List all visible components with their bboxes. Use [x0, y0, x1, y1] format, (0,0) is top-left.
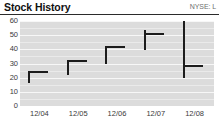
ohlc-stem [67, 61, 69, 75]
ohlc-stem [105, 47, 107, 64]
ohlc-stem [28, 72, 30, 83]
ohlc-close-tick [67, 60, 87, 62]
x-axis-tick-label: 12/04 [30, 109, 49, 118]
ohlc-close-tick [105, 46, 125, 48]
y-axis-tick-label: 0 [1, 102, 18, 110]
page-title: Stock History [4, 1, 70, 13]
gridline-minor [20, 85, 214, 86]
x-axis-tick-label: 12/05 [69, 109, 88, 118]
ohlc-close-tick [183, 65, 203, 67]
header-divider [0, 14, 219, 15]
ticker-symbol-label: NYSE: L [190, 3, 216, 10]
x-axis-tick-label: 12/06 [108, 109, 127, 118]
ohlc-close-tick [144, 33, 164, 35]
x-axis-tick-label: 12/08 [185, 109, 204, 118]
gridline-minor [20, 99, 214, 100]
stock-history-widget: Stock History NYSE: L 0102030405060 12/0… [0, 0, 219, 124]
x-axis: 12/0412/0512/0612/0712/08 [20, 109, 214, 123]
gridline [20, 78, 214, 79]
plot-area [20, 21, 214, 106]
ohlc-close-tick [28, 71, 48, 73]
ohlc-stem [183, 21, 185, 78]
y-axis-tick-label: 10 [1, 88, 18, 96]
y-axis-tick-label: 50 [1, 31, 18, 39]
gridline [20, 92, 214, 93]
y-axis-tick-label: 20 [1, 74, 18, 82]
chart-container: 0102030405060 12/0412/0512/0612/0712/08 [0, 18, 219, 124]
y-axis-tick-label: 30 [1, 60, 18, 68]
y-axis-tick-label: 60 [1, 17, 18, 25]
x-axis-tick-label: 12/07 [146, 109, 165, 118]
y-axis-tick-label: 40 [1, 45, 18, 53]
widget-header: Stock History NYSE: L [0, 0, 219, 17]
y-axis: 0102030405060 [0, 21, 18, 106]
